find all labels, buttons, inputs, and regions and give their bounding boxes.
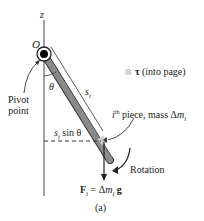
force-label: Fi = Δmi g — [80, 184, 122, 200]
torque-note: (into page) — [140, 66, 186, 77]
rotation-label: Rotation — [130, 164, 164, 175]
dist-rest: sin θ — [60, 127, 81, 138]
rotation-arrow — [116, 148, 130, 170]
distance-label: si sin θ — [54, 127, 81, 143]
theta-label: θ — [49, 81, 54, 92]
piece-sub: i — [184, 115, 186, 123]
torque-label: ⊗ τ (into page) — [124, 66, 186, 77]
si-dimension-line — [51, 47, 103, 131]
force-g: g — [114, 184, 122, 195]
force-eq: = Δ — [88, 184, 105, 195]
si-sub: i — [89, 92, 91, 100]
origin-label: O — [32, 39, 40, 50]
pivot-label: Pivot point — [8, 94, 29, 116]
caption: (a) — [95, 202, 106, 213]
pivot-label-line2: point — [8, 105, 29, 116]
pivot-pointer-arrow — [24, 62, 38, 93]
piece-label: ith piece, mass Δmi — [112, 107, 186, 125]
piece-text: piece, mass Δ — [119, 109, 177, 120]
z-axis-label: z — [40, 9, 44, 20]
into-page-icon: ⊗ — [124, 66, 132, 77]
pivot-label-line1: Pivot — [8, 94, 29, 105]
si-label: si — [85, 86, 91, 102]
